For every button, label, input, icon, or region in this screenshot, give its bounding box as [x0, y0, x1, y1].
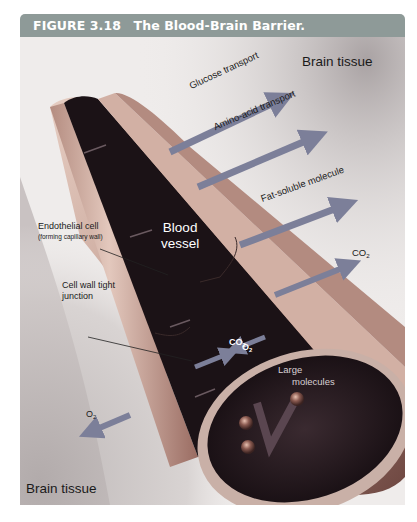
figure-header: FIGURE 3.18 The Blood-Brain Barrier.	[20, 14, 405, 37]
large-molecule	[239, 416, 253, 430]
illustration-canvas	[20, 37, 405, 505]
label-large-molecules: Large molecules	[278, 364, 335, 388]
figure-number: FIGURE 3.18	[33, 18, 121, 33]
label-o2-out: O2	[86, 409, 96, 420]
large-molecule	[241, 440, 255, 454]
label-blood-vessel: Blood vessel	[161, 220, 199, 252]
label-brain-tissue-top: Brain tissue	[302, 54, 373, 69]
label-o2-in: O2	[242, 342, 252, 353]
label-co2-out: CO2	[352, 247, 370, 259]
label-endothelial-cell-note: (forming capillary wall)	[38, 233, 103, 240]
label-brain-tissue-bottom: Brain tissue	[26, 481, 97, 496]
blood-brain-barrier-illustration: Brain tissue Glucose transport Amino-aci…	[20, 37, 405, 505]
label-endothelial-cell: Endothelial cell	[38, 221, 99, 231]
large-molecule	[290, 392, 304, 406]
figure-title: The Blood-Brain Barrier.	[134, 18, 306, 33]
label-cell-wall-tight-junction: Cell wall tight junction	[62, 280, 115, 302]
